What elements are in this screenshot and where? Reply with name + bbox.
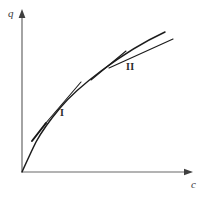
y-axis-label: q bbox=[8, 8, 14, 19]
tangent-line-region-2 bbox=[109, 39, 173, 68]
y-axis-arrow-icon bbox=[19, 9, 26, 18]
axes-group bbox=[19, 9, 193, 175]
tangent-line-mid bbox=[91, 51, 126, 80]
region-label-one: I bbox=[60, 108, 64, 118]
tangent-segment-lower bbox=[32, 123, 46, 141]
tangent-lines-group bbox=[32, 39, 173, 141]
figure-container: q c I II bbox=[0, 0, 209, 202]
region-label-two: II bbox=[126, 62, 134, 72]
x-axis-label: c bbox=[191, 179, 196, 190]
isotherm-chart-svg bbox=[0, 0, 209, 202]
x-axis-arrow-icon bbox=[184, 169, 193, 176]
